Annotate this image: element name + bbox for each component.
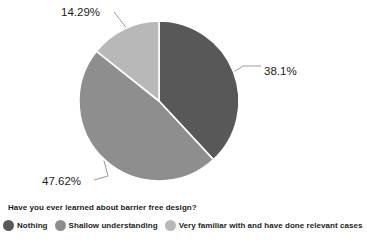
- pie-label-38: 38.1%: [264, 65, 297, 77]
- pie-slices-group: [79, 21, 239, 181]
- legend-item[interactable]: Nothing: [3, 220, 48, 231]
- leader-line-right: [234, 66, 261, 71]
- pie-label-47: 47.62%: [42, 175, 81, 187]
- legend-swatch-icon: [165, 220, 176, 231]
- legend-question-text: Have you ever learned about barrier free…: [8, 203, 197, 212]
- legend-item[interactable]: Very familiar with and have done relevan…: [165, 220, 363, 231]
- legend-item-label: Shallow understanding: [69, 221, 158, 230]
- pie-label-14: 14.29%: [61, 6, 100, 18]
- legend-block: Have you ever learned about barrier free…: [0, 196, 336, 244]
- pie-chart-svg: 38.1%47.62%14.29%: [0, 0, 336, 196]
- legend-swatch-icon: [3, 220, 14, 231]
- legend-swatch-icon: [55, 220, 66, 231]
- pie-chart-area: 38.1%47.62%14.29%: [0, 0, 336, 196]
- legend-item-label: Very familiar with and have done relevan…: [179, 221, 363, 230]
- leader-line-bottom-left: [94, 160, 108, 180]
- legend-item[interactable]: Shallow understanding: [55, 220, 158, 231]
- legend-item-label: Nothing: [17, 221, 48, 230]
- legend-items-list: NothingShallow understandingVery familia…: [3, 220, 367, 231]
